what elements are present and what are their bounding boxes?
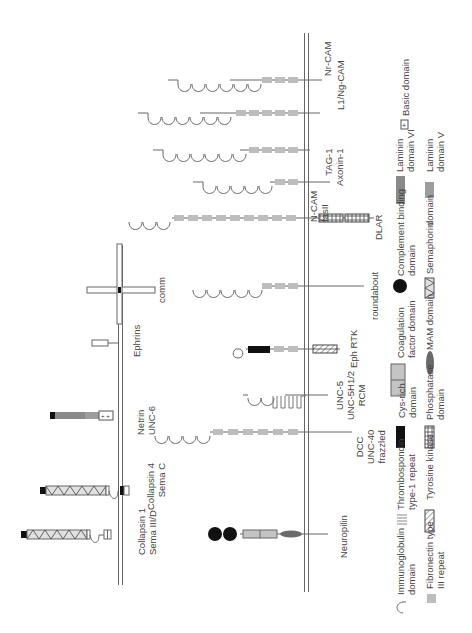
label-roundabout: roundabout bbox=[369, 272, 380, 320]
legend-comp-label: Complement bindingdomain bbox=[395, 189, 417, 276]
legend-sema-label: Semaphorin bbox=[424, 223, 435, 274]
label-netrin: Netrin UNC-6 bbox=[135, 406, 157, 435]
legend-tk-label: Tyrosine kinase bbox=[424, 434, 435, 500]
receptor-l1 bbox=[138, 110, 320, 125]
label-neuropilin: Neuropilin bbox=[338, 515, 349, 558]
receptor-tag1 bbox=[153, 147, 310, 162]
tyrosine-kinase bbox=[313, 345, 337, 353]
receptor-neuropilin bbox=[208, 527, 328, 541]
legend-mam-label: MAM domain bbox=[424, 294, 435, 350]
ligand-ephrins bbox=[92, 340, 118, 346]
svg-text:+: + bbox=[402, 122, 406, 129]
receptor-nr-cam bbox=[168, 77, 322, 92]
receptor-eph-rtk bbox=[233, 345, 340, 358]
legend-comp-icon bbox=[393, 279, 407, 293]
legend-ig-label: Immunoglobulindomain bbox=[395, 528, 417, 595]
label-eph-rtk: Eph RTK bbox=[348, 330, 359, 368]
label-comm: comm bbox=[156, 277, 167, 303]
label-collapsin4: Collapsin 4 Sema C bbox=[145, 463, 167, 510]
label-nr-cam: Nr-CAM bbox=[322, 42, 333, 76]
label-l1: L1/Ng-CAM bbox=[335, 60, 346, 110]
legend-sema-label-2: domain bbox=[424, 195, 435, 226]
phosphatase-domain-2 bbox=[345, 214, 369, 222]
label-unc5: UNC-5 UNC-5H1/2 RCM bbox=[334, 371, 367, 420]
receptor-unc5 bbox=[243, 395, 328, 408]
receptor-dlar bbox=[129, 214, 374, 230]
legend-tsp1-icon bbox=[397, 515, 407, 524]
legend-cys-label: Cys-richdomain bbox=[396, 383, 418, 418]
legend-ig-icon bbox=[397, 602, 403, 613]
legend-lam5-label: Laminindomain V bbox=[424, 132, 446, 172]
complement-binding-2 bbox=[223, 527, 237, 541]
label-collapsin1: Collapsin 1 Sema III/D bbox=[136, 508, 158, 555]
label-tag1-axonin: TAG-1 Axonin-1 bbox=[323, 149, 345, 187]
legend-basic-label: Basic domain bbox=[400, 59, 411, 116]
label-dcc: DCC UNC-40 frazzled bbox=[354, 430, 387, 464]
ligand-collapsin4 bbox=[40, 486, 129, 499]
label-dlar: DLAR bbox=[373, 215, 384, 240]
legend-ptp-label: Phosphatasedomain bbox=[424, 365, 446, 420]
ligand-collapsin1 bbox=[21, 530, 111, 543]
label-ncam-fasii: N-CAM fasII bbox=[308, 191, 330, 222]
legend-fn3-icon bbox=[427, 594, 436, 603]
legend-fn3-label: Fibronectin typeIII repeat bbox=[424, 521, 446, 589]
receptor-dcc bbox=[155, 429, 352, 444]
legend-tsp1-label: Thrombospondintype-1 repeat bbox=[395, 439, 417, 510]
receptor-roundabout bbox=[193, 283, 364, 298]
complement-binding-1 bbox=[208, 527, 222, 541]
cys-rich bbox=[248, 346, 270, 353]
legend-lam6-label: Laminindomain VI bbox=[394, 129, 416, 172]
mam-domain bbox=[280, 531, 302, 538]
ligand-netrin: + + bbox=[50, 411, 113, 420]
ligand-comm bbox=[87, 244, 155, 324]
label-ephrins: Ephrins bbox=[131, 325, 142, 357]
svg-text:+ +: + + bbox=[101, 413, 110, 419]
legend-coag-label: Coagulationfactor domain bbox=[395, 300, 417, 358]
